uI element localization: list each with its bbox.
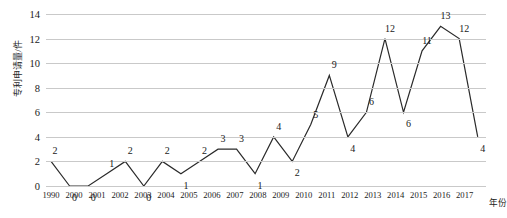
x-axis-tick-label: 2012 — [341, 190, 358, 200]
data-point-label: 0 — [146, 192, 151, 203]
y-axis-title: 专利申请量/件 — [11, 21, 24, 117]
plot-area: 0246810121419902000200120022003200420052… — [46, 14, 486, 186]
x-axis-tick-label: 2013 — [364, 190, 381, 200]
y-axis-tick-label: 8 — [35, 82, 40, 93]
x-axis-tick-label: 2010 — [295, 190, 312, 200]
data-point-label: 13 — [441, 10, 451, 21]
data-point-label: 2 — [295, 167, 300, 178]
x-axis-title: 年份 — [489, 196, 507, 208]
data-point-label: 5 — [313, 108, 318, 119]
data-point-label: 11 — [422, 34, 432, 45]
y-axis-tick-label: 2 — [35, 156, 40, 167]
data-point-label: 4 — [276, 120, 281, 131]
x-axis-tick-label: 2007 — [226, 190, 243, 200]
x-axis-tick-label: 2004 — [157, 190, 174, 200]
data-point-label: 3 — [221, 133, 226, 144]
data-point-label: 2 — [128, 145, 133, 156]
data-point-label: 0 — [91, 192, 96, 203]
y-axis-tick-label: 14 — [30, 9, 41, 20]
x-axis-tick-label: 2008 — [249, 190, 266, 200]
gridline: 14 — [46, 14, 486, 15]
gridline: 4 — [46, 137, 486, 138]
x-axis-tick-label: 2005 — [180, 190, 197, 200]
data-point-label: 4 — [350, 142, 355, 153]
x-axis-tick-label: 2009 — [272, 190, 289, 200]
data-point-label: 1 — [258, 179, 263, 190]
y-axis-tick-label: 6 — [35, 107, 40, 118]
gridline: 8 — [46, 88, 486, 89]
gridline: 0 — [46, 186, 486, 187]
data-point-label: 1 — [183, 179, 188, 190]
data-point-label: 9 — [332, 59, 337, 70]
x-axis-tick-label: 2011 — [318, 190, 335, 200]
data-point-label: 2 — [165, 145, 170, 156]
y-axis-tick-label: 4 — [35, 131, 40, 142]
data-point-label: 4 — [480, 142, 485, 153]
data-point-label: 6 — [369, 96, 374, 107]
x-axis-tick-label: 2014 — [387, 190, 404, 200]
y-axis-tick-label: 10 — [30, 58, 41, 69]
data-point-label: 1 — [109, 157, 114, 168]
gridline: 12 — [46, 39, 486, 40]
x-axis-tick-label: 1990 — [42, 190, 59, 200]
gridline: 6 — [46, 112, 486, 113]
data-point-label: 6 — [406, 118, 411, 129]
y-axis-tick-label: 12 — [30, 33, 41, 44]
data-point-label: 2 — [53, 145, 58, 156]
x-axis-tick-label: 2015 — [410, 190, 427, 200]
data-point-label: 2 — [202, 145, 207, 156]
data-point-label: 3 — [239, 133, 244, 144]
x-axis-tick-label: 2017 — [456, 190, 473, 200]
x-axis-tick-label: 2006 — [203, 190, 220, 200]
data-point-label: 12 — [459, 22, 469, 33]
x-axis-tick-label: 2016 — [433, 190, 450, 200]
y-axis-tick-label: 0 — [35, 181, 40, 192]
data-point-label: 12 — [385, 22, 395, 33]
gridline: 10 — [46, 63, 486, 64]
x-axis-tick-label: 2002 — [111, 190, 128, 200]
data-point-label: 0 — [72, 192, 77, 203]
